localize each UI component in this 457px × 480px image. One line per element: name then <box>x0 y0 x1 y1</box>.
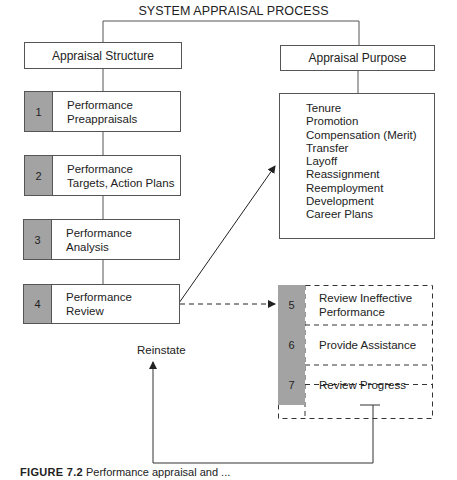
figure-number: FIGURE 7.2 <box>20 466 83 478</box>
step-label: Performance Review <box>52 285 179 323</box>
appraisal-structure-header: Appraisal Structure <box>24 42 182 69</box>
ineffective-performance-group: 5 Review Ineffective Performance 6 Provi… <box>278 285 433 419</box>
step-2-box: 2 Performance Targets, Action Plans <box>24 155 181 196</box>
diagram-title: SYSTEM APPRAISAL PROCESS <box>0 4 457 18</box>
appraisal-purpose-label: Appraisal Purpose <box>308 51 406 65</box>
purpose-item: Tenure <box>306 102 434 115</box>
appraisal-purpose-header: Appraisal Purpose <box>280 45 435 71</box>
step-4-box: 4 Performance Review <box>23 284 180 324</box>
step-number: 2 <box>25 156 53 195</box>
purpose-item: Promotion <box>306 115 434 128</box>
step-number: 5 <box>278 285 305 325</box>
purpose-item: Development <box>306 195 434 208</box>
step-number: 3 <box>24 220 52 259</box>
purpose-item: Layoff <box>306 155 434 168</box>
appraisal-structure-label: Appraisal Structure <box>52 49 154 63</box>
purpose-item: Transfer <box>306 142 434 155</box>
step-number: 1 <box>25 92 53 131</box>
step-1-box: 1 Performance Preappraisals <box>24 91 181 132</box>
step-number: 4 <box>24 285 52 323</box>
step-3-box: 3 Performance Analysis <box>23 219 180 260</box>
step-number: 6 <box>278 325 305 365</box>
purpose-item: Compensation (Merit) <box>306 129 434 142</box>
purpose-item: Reassignment <box>306 168 434 181</box>
step-7-row: 7 Review Progress <box>278 365 433 405</box>
step-number: 7 <box>278 365 305 405</box>
purpose-item: Reemployment <box>306 182 434 195</box>
reinstate-label: Reinstate <box>137 344 186 356</box>
step-label: Review Ineffective Performance <box>305 285 433 325</box>
step-5-row: 5 Review Ineffective Performance <box>278 285 433 325</box>
purpose-list-box: Tenure Promotion Compensation (Merit) Tr… <box>279 93 435 239</box>
step-label: Performance Analysis <box>52 220 179 259</box>
step-label: Performance Preappraisals <box>53 92 180 131</box>
step-label: Provide Assistance <box>305 325 433 365</box>
step-6-row: 6 Provide Assistance <box>278 325 433 365</box>
step-label: Review Progress <box>305 365 433 405</box>
figure-caption-text: Performance appraisal and ... <box>86 466 230 478</box>
step-label: Performance Targets, Action Plans <box>53 156 180 195</box>
figure-caption: FIGURE 7.2 Performance appraisal and ... <box>20 466 230 478</box>
purpose-item: Career Plans <box>306 208 434 221</box>
